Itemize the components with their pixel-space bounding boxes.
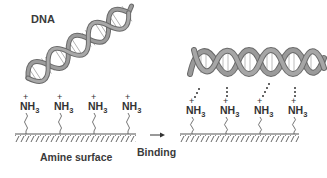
bound-amine-group: +NH3 (186, 105, 205, 116)
amine-group: +NH3 (54, 101, 73, 112)
right-amine-surface (180, 134, 299, 142)
bound-amine-group: +NH3 (288, 105, 307, 116)
bound-dna-helix-icon (190, 50, 324, 74)
amine-group: +NH3 (88, 101, 107, 112)
dna-binding-diagram: DNA Amine surface Binding +NH3 +NH3 +NH3… (0, 0, 327, 178)
left-linker-chains (25, 113, 130, 134)
right-linker-chains (191, 117, 296, 134)
amine-group: +NH3 (122, 101, 141, 112)
bound-amine-group: +NH3 (254, 105, 273, 116)
electrostatic-interaction-dots (194, 83, 296, 98)
left-amine-surface (15, 134, 136, 142)
amine-surface-label: Amine surface (40, 151, 112, 163)
binding-arrow-icon (150, 133, 165, 138)
amine-group: +NH3 (20, 101, 39, 112)
bound-amine-group: +NH3 (220, 105, 239, 116)
binding-label: Binding (137, 146, 176, 158)
dna-label: DNA (31, 13, 55, 25)
